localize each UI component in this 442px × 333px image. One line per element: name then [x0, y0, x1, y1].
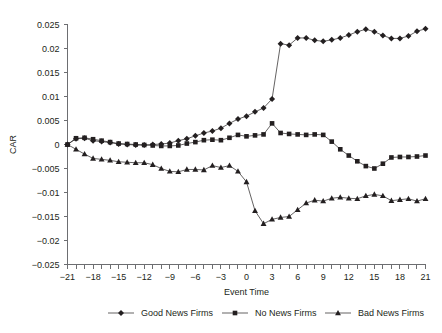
x-axis-tick-label: −18 [85, 272, 100, 282]
series-line [68, 29, 426, 145]
data-point-marker [363, 26, 369, 32]
data-point-marker [338, 147, 343, 152]
data-point-marker [142, 143, 147, 148]
x-axis-tick-label: −21 [60, 272, 75, 282]
data-point-marker [227, 135, 232, 140]
legend-item-good-news-firms[interactable]: Good News Firms [108, 308, 214, 318]
x-axis-title: Event Time [224, 287, 269, 297]
data-point-marker [380, 33, 386, 39]
data-point-marker [219, 138, 224, 143]
data-point-marker [175, 138, 181, 144]
data-point-marker [184, 136, 190, 142]
data-point-marker [371, 29, 377, 35]
axis-labels-group: 0.0250.020.0150.010.0050−0.005−0.01−0.01… [8, 20, 431, 297]
data-point-marker [82, 151, 88, 156]
legend-item-no-news-firms[interactable]: No News Firms [222, 308, 317, 318]
data-point-marker [286, 213, 292, 218]
diamond-marker [118, 310, 124, 316]
data-point-marker [236, 133, 241, 138]
data-point-marker [304, 133, 309, 138]
series-group [65, 26, 429, 226]
data-point-marker [423, 26, 429, 32]
data-point-marker [278, 131, 283, 136]
data-point-marker [167, 144, 172, 149]
data-point-marker [364, 164, 369, 169]
data-point-marker [235, 168, 241, 173]
data-point-marker [320, 38, 326, 44]
y-axis-tick-label: 0.015 [37, 68, 60, 78]
data-point-marker [423, 196, 429, 201]
legend-label: Good News Firms [141, 308, 214, 318]
x-axis-tick-label: 0 [244, 272, 249, 282]
data-point-marker [218, 125, 224, 131]
data-point-marker [329, 37, 335, 43]
data-point-marker [312, 37, 318, 43]
y-axis-tick-label: −0.025 [32, 260, 60, 270]
data-point-marker [406, 155, 411, 160]
data-point-marker [295, 132, 300, 137]
data-point-marker [261, 132, 266, 137]
x-axis-tick-label: 6 [295, 272, 300, 282]
x-axis-tick-label: 12 [344, 272, 354, 282]
data-point-marker [389, 155, 394, 160]
car-event-study-chart: 0.0250.020.0150.010.0050−0.005−0.01−0.01… [0, 0, 442, 333]
data-point-marker [337, 194, 343, 199]
data-point-marker [346, 32, 352, 38]
y-axis-tick-label: 0.01 [42, 92, 60, 102]
data-point-marker [91, 137, 96, 142]
data-point-marker [176, 143, 181, 148]
data-point-marker [295, 207, 301, 212]
data-point-marker [244, 134, 249, 139]
data-point-marker [244, 113, 250, 119]
data-point-marker [185, 141, 190, 146]
data-point-marker [397, 35, 403, 41]
x-axis-tick-label: −9 [165, 272, 175, 282]
data-point-marker [192, 166, 198, 171]
y-axis-tick-label: −0.01 [37, 188, 60, 198]
data-point-marker [184, 166, 190, 171]
data-point-marker [415, 154, 420, 159]
x-axis-tick-label: −12 [137, 272, 152, 282]
data-point-marker [209, 163, 215, 168]
data-point-marker [125, 142, 130, 147]
y-axis-tick-label: 0.005 [37, 116, 60, 126]
data-point-marker [287, 132, 292, 137]
data-point-marker [278, 41, 284, 47]
data-point-marker [406, 196, 412, 201]
data-point-marker [133, 142, 138, 147]
y-axis-title: CAR [8, 135, 18, 155]
data-point-marker [414, 28, 420, 34]
data-point-marker [73, 146, 79, 151]
data-point-marker [405, 33, 411, 39]
y-axis-tick-label: −0.02 [37, 236, 60, 246]
data-point-marker [312, 132, 317, 137]
data-point-marker [321, 133, 326, 138]
x-axis-tick-label: −6 [190, 272, 200, 282]
data-point-marker [261, 221, 267, 226]
data-point-marker [388, 35, 394, 41]
data-point-marker [82, 135, 87, 140]
chart-legend: Good News FirmsNo News FirmsBad News Fir… [108, 308, 425, 318]
data-point-marker [116, 141, 121, 146]
data-point-marker [159, 144, 164, 149]
data-point-marker [329, 139, 334, 144]
data-point-marker [355, 159, 360, 164]
x-axis-tick-label: 21 [420, 272, 430, 282]
data-point-marker [193, 140, 198, 145]
data-point-marker [74, 136, 79, 141]
x-axis-tick-label: −3 [216, 272, 226, 282]
data-point-marker [252, 208, 258, 213]
data-point-marker [312, 197, 318, 202]
data-point-marker [270, 121, 275, 126]
data-point-marker [192, 133, 198, 139]
triangle-marker [335, 310, 341, 315]
series-bad-news-firms [65, 141, 429, 226]
data-point-marker [235, 116, 241, 122]
y-axis-tick-label: 0.02 [42, 44, 60, 54]
legend-item-bad-news-firms[interactable]: Bad News Firms [325, 308, 425, 318]
x-axis-tick-label: 9 [321, 272, 326, 282]
data-point-marker [201, 130, 207, 136]
data-point-marker [226, 120, 232, 126]
x-axis-tick-label: 3 [270, 272, 275, 282]
data-point-marker [381, 161, 386, 166]
